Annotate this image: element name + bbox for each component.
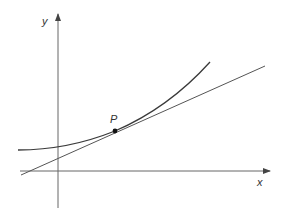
x-axis-label: x [256, 176, 263, 188]
diagram-canvas: P y x [0, 0, 281, 218]
tangent-diagram: P y x [0, 0, 281, 218]
y-axis-label: y [41, 15, 49, 27]
point-p-marker [113, 129, 118, 134]
curve [18, 62, 210, 150]
point-p-label: P [110, 113, 118, 125]
